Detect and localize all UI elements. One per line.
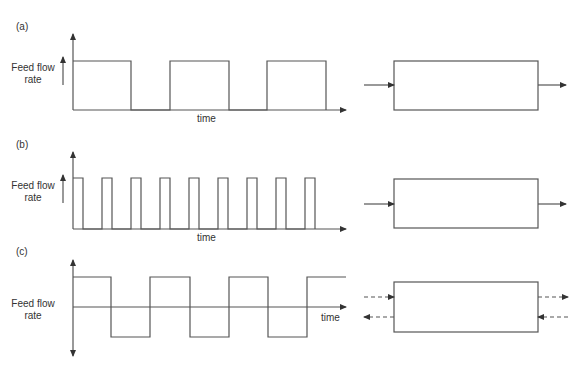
y-axis-label-a: Feed flow rate: [3, 62, 63, 86]
y-axis-label-line1: Feed flow: [3, 298, 63, 310]
x-axis-label-a: time: [197, 113, 216, 125]
reactor-b: [364, 179, 566, 228]
panel-a-plot: [63, 34, 346, 110]
panel-label-b: (b): [16, 139, 28, 151]
reactor-a: [364, 61, 566, 110]
panel-label-c: (c): [16, 246, 28, 258]
y-axis-label-line1: Feed flow: [3, 62, 63, 74]
reactor-box-a: [394, 61, 538, 110]
reactor-box-b: [394, 179, 538, 228]
y-axis-label-line1: Feed flow: [3, 180, 63, 192]
waveform-b: [73, 178, 315, 229]
x-axis-label-b: time: [197, 232, 216, 244]
panel-label-a: (a): [16, 21, 28, 33]
y-axis-label-line2: rate: [3, 192, 63, 204]
panel-b-plot: [63, 152, 346, 229]
x-axis-label-c: time: [321, 312, 340, 324]
y-axis-label-line2: rate: [3, 310, 63, 322]
diagram-canvas: [0, 0, 586, 373]
waveform-a: [73, 61, 326, 110]
panel-c-plot: [73, 260, 346, 356]
reactor-box-c: [394, 282, 538, 332]
y-axis-label-b: Feed flow rate: [3, 180, 63, 204]
reactor-c: [364, 282, 568, 332]
y-axis-label-c: Feed flow rate: [3, 298, 63, 322]
y-axis-label-line2: rate: [3, 74, 63, 86]
